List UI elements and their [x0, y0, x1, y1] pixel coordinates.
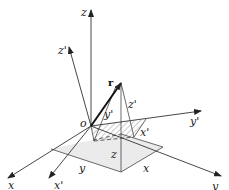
- coordinate-frames-diagram: z z' r o y' z' x' y' z x x' y x y: [0, 0, 229, 190]
- y-segment-label: y: [78, 162, 86, 175]
- x-segment-label: x: [143, 162, 150, 175]
- xprime-segment-label: x': [140, 126, 149, 139]
- zprime-segment-label: z': [127, 98, 137, 111]
- origin-label: o: [80, 117, 87, 130]
- y-axis-label: y: [211, 180, 219, 190]
- zprime-axis-label: z': [57, 44, 67, 57]
- z-axis-label: z: [80, 6, 87, 19]
- r-vector-label: r: [108, 77, 114, 88]
- x-axis-label: x: [8, 179, 15, 190]
- yprime-axis-label: y': [189, 115, 199, 128]
- zprime-axis: [69, 47, 91, 126]
- xprime-axis-label: x': [54, 179, 63, 190]
- z-segment-label: z: [110, 148, 117, 161]
- yprime-segment-label: y': [103, 108, 113, 121]
